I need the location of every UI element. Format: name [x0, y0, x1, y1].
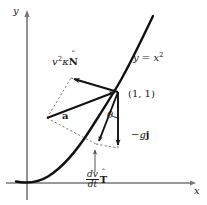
curve-equation-text: y = x [133, 52, 159, 63]
x-axis-label: x [194, 186, 200, 196]
hat-accent-t: ˆ [101, 169, 106, 178]
y-axis [24, 10, 29, 200]
parabola-curve [16, 16, 153, 182]
tangential-component-label: dv dt ˆT [86, 170, 107, 189]
normal-component-label: v2κˆN [52, 56, 78, 67]
unit-tangent-vector: ˆT [100, 175, 107, 185]
fraction-denominator: dt [86, 180, 99, 189]
y-axis-label: y [13, 6, 19, 16]
unit-j-vector: j [146, 129, 150, 140]
acceleration-letter: a [62, 110, 68, 121]
figure-canvas: y x y = x2 (1, 1) v2κˆN a θ −gj dv dt ˆT [0, 0, 207, 205]
acceleration-label: a [62, 111, 68, 121]
angle-theta-label: θ [107, 110, 113, 120]
hat-accent-n: ˆ [71, 51, 76, 60]
unit-normal-vector: ˆN [69, 57, 78, 67]
point-label: (1, 1) [128, 89, 155, 99]
gravity-prefix: −g [131, 129, 146, 140]
dv-dt-fraction: dv dt [86, 170, 99, 189]
gravity-label: −gj [131, 130, 149, 140]
curve-equation-exponent: 2 [159, 51, 163, 59]
curve-equation-label: y = x2 [133, 52, 164, 63]
vector-normal-component [74, 79, 118, 92]
